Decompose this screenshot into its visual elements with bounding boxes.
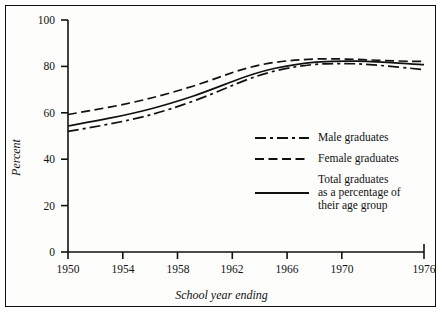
legend-label-female-graduates: Female graduates [318, 152, 399, 165]
series-line-total-graduates [68, 61, 424, 126]
legend-swatch-dash-dot-icon [255, 131, 309, 145]
legend-label-total-line3: their age group [318, 199, 388, 211]
y-tick-label-80: 80 [20, 60, 55, 72]
x-tick-label-1954: 1954 [112, 263, 135, 275]
legend-swatch-solid-icon [255, 186, 309, 200]
legend-item-male-graduates: Male graduates [255, 131, 430, 145]
chart-legend: Male graduates Female graduates Total gr… [255, 131, 430, 219]
x-tick-label-1958: 1958 [167, 263, 190, 275]
y-axis-ticks [61, 20, 68, 252]
legend-swatch-dashed-icon [255, 152, 309, 166]
x-tick-label-1966: 1966 [276, 263, 299, 275]
x-axis-ticks [68, 252, 424, 259]
legend-label-male-graduates: Male graduates [318, 131, 389, 144]
data-series-group [68, 59, 424, 132]
y-tick-label-40: 40 [20, 153, 55, 165]
legend-item-total-graduates: Total graduates as a percentage of their… [255, 173, 430, 212]
x-tick-label-1970: 1970 [331, 263, 354, 275]
legend-label-total-graduates: Total graduates as a percentage of their… [318, 173, 401, 212]
series-line-female-graduates [68, 59, 424, 115]
y-tick-label-20: 20 [20, 200, 55, 212]
x-axis-title: School year ending [0, 288, 443, 303]
x-tick-label-1976: 1976 [413, 263, 436, 275]
legend-label-total-line1: Total graduates [318, 173, 388, 185]
x-tick-label-1950: 1950 [57, 263, 80, 275]
y-tick-label-100: 100 [20, 14, 55, 26]
legend-label-total-line2: as a percentage of [318, 186, 401, 198]
y-axis-title: Percent [9, 139, 24, 176]
x-tick-label-1962: 1962 [221, 263, 244, 275]
legend-item-female-graduates: Female graduates [255, 152, 430, 166]
y-tick-label-0: 0 [20, 246, 55, 258]
y-tick-label-60: 60 [20, 107, 55, 119]
series-line-male-graduates [68, 64, 424, 132]
